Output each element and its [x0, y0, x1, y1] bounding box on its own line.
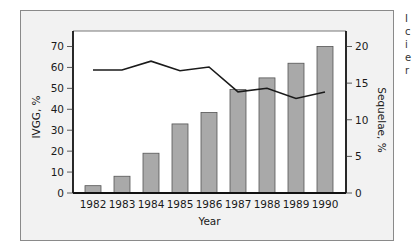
x-tick-label: 1982: [80, 198, 107, 210]
right-tick-label: 5: [355, 150, 362, 162]
x-axis-title: Year: [197, 215, 221, 227]
left-tick-label: 10: [51, 166, 64, 178]
x-tick-label: 1983: [109, 198, 136, 210]
bar-1984: [143, 153, 159, 193]
bar-1983: [114, 176, 130, 193]
left-tick-label: 30: [51, 124, 64, 136]
left-tick-label: 60: [51, 61, 64, 73]
x-tick-label: 1989: [283, 198, 310, 210]
right-axis-title: Sequelae, %: [376, 87, 388, 152]
bar-1989: [288, 63, 304, 193]
x-tick-label: 1986: [196, 198, 223, 210]
left-tick-label: 20: [51, 145, 64, 157]
bar-1986: [201, 112, 217, 193]
caption-fragment: c: [405, 25, 414, 38]
bar-1988: [259, 78, 275, 193]
left-tick-label: 70: [51, 40, 64, 52]
caption-fragment: r: [405, 64, 414, 77]
caption-fragment: e: [405, 51, 414, 64]
x-tick-label: 1988: [254, 198, 281, 210]
right-tick-label: 20: [355, 40, 368, 52]
caption-fragment: i: [405, 38, 414, 51]
x-tick-label: 1987: [225, 198, 252, 210]
x-tick-label: 1990: [312, 198, 339, 210]
left-tick-label: 40: [51, 103, 64, 115]
caption-fragment: I: [405, 12, 414, 25]
bar-1985: [172, 124, 188, 193]
left-tick-label: 0: [57, 187, 64, 199]
right-tick-label: 15: [355, 77, 368, 89]
left-axis-title: IVGG, %: [30, 95, 42, 138]
combo-chart: 0102030405060700510152019821983198419851…: [0, 0, 414, 247]
bar-1987: [230, 89, 246, 193]
x-tick-label: 1985: [167, 198, 194, 210]
right-tick-label: 10: [355, 114, 368, 126]
bar-1982: [85, 186, 101, 193]
right-tick-label: 0: [355, 187, 362, 199]
left-tick-label: 50: [51, 82, 64, 94]
bar-1990: [317, 47, 333, 194]
x-tick-label: 1984: [138, 198, 165, 210]
